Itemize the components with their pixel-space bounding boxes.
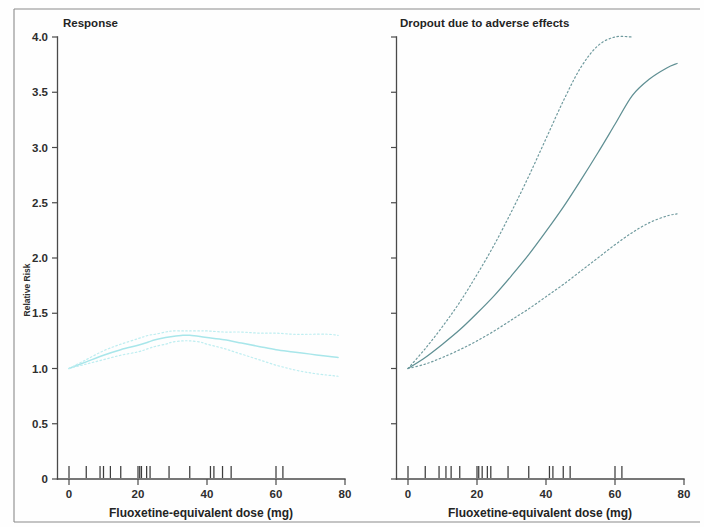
x-tick-label: 60 [270, 488, 283, 500]
dose-response-figure: Response 4.0 3.5 3.0 2.5 2. [0, 0, 704, 527]
x-tick-label: 80 [678, 488, 691, 500]
y-tick-label: 3.5 [32, 86, 49, 98]
y-tick-label: 4.0 [32, 31, 48, 43]
x-tick-label: 0 [66, 488, 72, 500]
x-tick-label: 80 [339, 488, 352, 500]
figure-container: Response 4.0 3.5 3.0 2.5 2. [0, 0, 704, 527]
x-tick-label: 0 [405, 488, 411, 500]
x-tick-label: 20 [471, 488, 484, 500]
y-tick-label: 1.5 [32, 307, 49, 319]
x-tick-label: 40 [201, 488, 214, 500]
panel-title-dropout: Dropout due to adverse effects [400, 17, 569, 29]
x-axis-title-right: Fluoxetine-equivalent dose (mg) [448, 506, 632, 520]
y-tick-label: 0.5 [32, 418, 49, 430]
y-tick-label: 2.5 [32, 197, 49, 209]
y-tick-label: 2.0 [32, 252, 48, 264]
panel-title-response: Response [63, 17, 118, 29]
y-tick-label: 1.0 [32, 363, 48, 375]
figure-background [0, 0, 704, 527]
x-tick-label: 40 [540, 488, 553, 500]
x-axis-title-left: Fluoxetine-equivalent dose (mg) [109, 506, 293, 520]
y-axis-title-left: Relative Risk [22, 263, 32, 316]
x-tick-label: 60 [609, 488, 622, 500]
y-tick-label: 3.0 [32, 142, 48, 154]
x-tick-label: 20 [132, 488, 145, 500]
y-tick-label: 0 [42, 473, 48, 485]
